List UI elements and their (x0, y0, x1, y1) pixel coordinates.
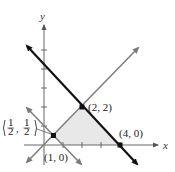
label-2-2: (2, 2) (88, 101, 112, 114)
label-4-0: (4, 0) (119, 127, 143, 140)
x-axis-label: x (162, 139, 168, 151)
point-half-half (51, 133, 56, 138)
svg-text:,: , (16, 122, 19, 134)
graph: x y (2, 2) (4, 0) (1, 0) 1 2 , 1 2 (0, 0, 175, 172)
y-axis-label: y (39, 10, 45, 22)
point-2-2 (80, 105, 85, 110)
svg-text:2: 2 (8, 125, 14, 137)
svg-text:2: 2 (24, 125, 30, 137)
label-1-0: (1, 0) (44, 151, 68, 164)
point-4-0 (118, 143, 123, 148)
